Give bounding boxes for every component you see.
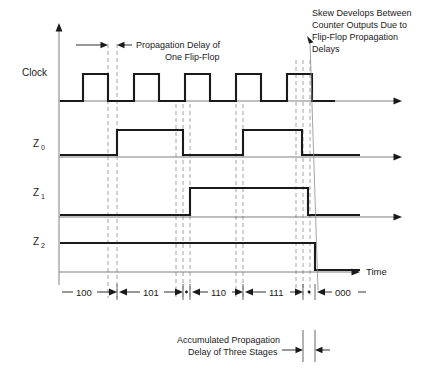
state-label-000: 000 [335,287,351,298]
signal-label-z1-base: Z [33,187,39,198]
state-label-111: 111 [269,287,283,298]
skew-callout-line1: Skew Develops Between [312,8,412,18]
state-label-101: 101 [143,287,159,298]
accumulated-delay-line1: Accumulated Propagation [177,335,280,345]
state-label-100: 100 [76,287,92,298]
signal-label-z0-sub: 0 [41,144,45,151]
propagation-delay-line1: Propagation Delay of [136,40,221,50]
timing-diagram-svg: Clock Z 0 Z 1 Z 2 Time Propagation Del [0,0,433,375]
signal-label-z2-base: Z [33,236,39,247]
accumulated-delay-line2: Delay of Three Stages [188,347,278,357]
skew-callout-line2: Counter Outputs Due to [312,20,407,30]
signal-z0 [59,130,402,160]
signal-label-z0-base: Z [33,138,39,149]
propagation-delay-line2: One Flip-Flop [165,52,220,62]
state-label-110: 110 [211,287,226,298]
signal-label-z2-sub: 2 [41,242,45,249]
signal-z2 [59,243,360,275]
signal-clock [59,74,402,104]
accumulated-delay-measure [282,330,330,362]
signal-label-clock: Clock [22,67,48,78]
signal-label-z2: Z 2 [33,236,45,249]
state-gap-dot-1 [185,291,188,294]
skew-callout-line4: Delays [312,44,340,54]
propagation-delay-callout [76,42,132,48]
signal-label-z0: Z 0 [33,138,45,151]
time-axis-label: Time [366,266,387,277]
signal-label-z1: Z 1 [33,187,45,200]
state-gap-dot-2 [308,291,311,294]
skew-callout-line3: Flip-Flop Propagation [312,32,398,42]
signal-z1 [59,188,402,220]
signal-label-z1-sub: 1 [41,193,45,200]
timing-diagram-figure: Clock Z 0 Z 1 Z 2 Time Propagation Del [0,0,433,375]
